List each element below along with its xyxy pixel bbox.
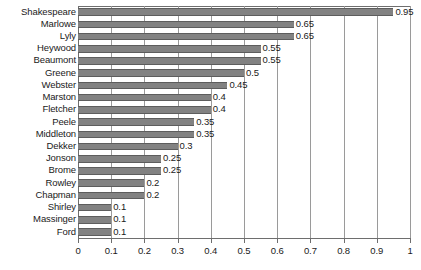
value-label: 0.35 — [196, 117, 214, 127]
value-label: 0.1 — [113, 202, 126, 212]
category-label: Marlowe — [0, 19, 76, 29]
bar — [78, 33, 294, 41]
category-label: Fletcher — [0, 104, 76, 114]
bar — [78, 167, 161, 175]
bar — [78, 57, 261, 65]
value-label: 0.55 — [263, 43, 281, 53]
x-axis-tick-label: 0.6 — [271, 245, 284, 256]
value-label: 0.45 — [229, 80, 247, 90]
bar — [78, 155, 161, 163]
bar-chart: ShakespeareMarloweLylyHeywoodBeaumontGre… — [0, 0, 421, 270]
value-label: 0.3 — [180, 141, 193, 151]
value-label: 0.25 — [163, 153, 181, 163]
bar — [78, 216, 111, 224]
bar — [78, 143, 178, 151]
category-label: Dekker — [0, 141, 76, 151]
x-axis-tick — [244, 239, 245, 243]
value-label: 0.2 — [146, 178, 159, 188]
value-label: 0.5 — [246, 68, 259, 78]
category-label: Beaumont — [0, 55, 76, 65]
category-label: Chapman — [0, 190, 76, 200]
category-label: Massinger — [0, 214, 76, 224]
category-label: Lyly — [0, 31, 76, 41]
x-axis-tick — [111, 239, 112, 243]
value-label: 0.35 — [196, 129, 214, 139]
x-axis-tick-label: 0.7 — [304, 245, 317, 256]
category-label: Marston — [0, 92, 76, 102]
category-label: Middleton — [0, 129, 76, 139]
value-label: 0.65 — [296, 31, 314, 41]
x-axis-tick-label: 0 — [75, 245, 80, 256]
value-label: 0.2 — [146, 190, 159, 200]
plot-area — [78, 6, 410, 238]
value-label: 0.65 — [296, 19, 314, 29]
x-axis-tick — [310, 239, 311, 243]
value-label: 0.1 — [113, 227, 126, 237]
x-axis-tick-label: 0.5 — [238, 245, 251, 256]
gridline — [410, 6, 411, 238]
x-axis-tick-label: 0.1 — [105, 245, 118, 256]
x-axis-tick-label: 0.4 — [204, 245, 217, 256]
category-label: Heywood — [0, 43, 76, 53]
bar — [78, 192, 144, 200]
gridline — [377, 6, 378, 238]
category-label: Rowley — [0, 178, 76, 188]
value-label: 0.4 — [213, 92, 226, 102]
bar — [78, 69, 244, 77]
x-axis-tick — [78, 239, 79, 243]
x-axis-tick-label: 0.9 — [370, 245, 383, 256]
category-label: Shakespeare — [0, 7, 76, 17]
category-label: Brome — [0, 165, 76, 175]
x-axis-tick — [377, 239, 378, 243]
category-label: Webster — [0, 80, 76, 90]
category-label: Ford — [0, 227, 76, 237]
value-label: 0.1 — [113, 214, 126, 224]
value-label: 0.95 — [395, 7, 413, 17]
x-axis-tick — [410, 239, 411, 243]
bar — [78, 82, 227, 90]
bar — [78, 21, 294, 29]
x-axis-tick-label: 0.2 — [138, 245, 151, 256]
gridline — [244, 6, 245, 238]
gridline — [344, 6, 345, 238]
x-axis-tick — [211, 239, 212, 243]
value-label: 0.4 — [213, 104, 226, 114]
x-axis-tick-label: 0.3 — [171, 245, 184, 256]
category-label: Peele — [0, 117, 76, 127]
value-label: 0.25 — [163, 165, 181, 175]
category-label: Shirley — [0, 202, 76, 212]
x-axis-tick-label: 1 — [407, 245, 412, 256]
value-label: 0.55 — [263, 55, 281, 65]
bar — [78, 179, 144, 187]
bar — [78, 45, 261, 53]
x-axis-tick — [277, 239, 278, 243]
x-axis-tick — [344, 239, 345, 243]
category-label: Greene — [0, 68, 76, 78]
bar — [78, 131, 194, 139]
category-label: Jonson — [0, 153, 76, 163]
bar — [78, 118, 194, 126]
bar — [78, 106, 211, 114]
bar — [78, 8, 393, 16]
x-axis-tick — [144, 239, 145, 243]
x-axis-tick-label: 0.8 — [337, 245, 350, 256]
bar — [78, 228, 111, 236]
bar — [78, 94, 211, 102]
x-axis-tick — [178, 239, 179, 243]
gridline — [277, 6, 278, 238]
bar — [78, 204, 111, 212]
